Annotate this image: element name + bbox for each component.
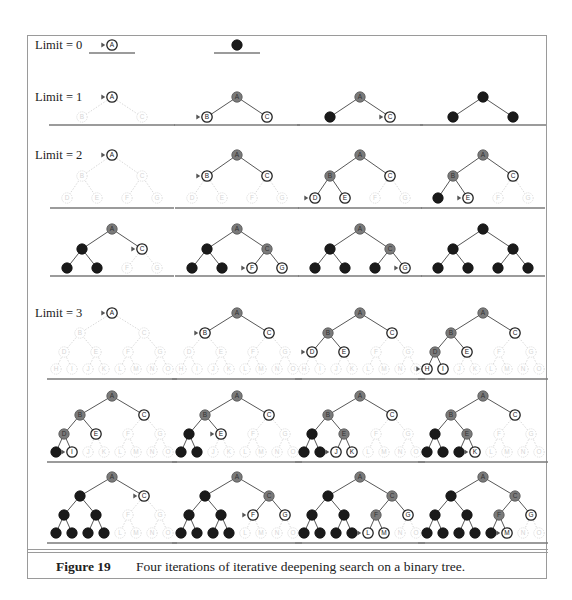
node-label: N <box>150 365 155 372</box>
node-label: J <box>86 365 89 372</box>
node-label: G <box>282 511 287 518</box>
limit-0-label: Limit = 0 <box>35 38 82 53</box>
node-label: C <box>265 113 270 120</box>
node-label: C <box>388 172 393 179</box>
search-tree: ACFGMNO <box>418 472 548 543</box>
search-tree: ABCEFGJKLMNO <box>295 391 425 462</box>
node-label: N <box>275 448 280 455</box>
node-label: O <box>165 448 170 455</box>
node-label: E <box>342 348 347 355</box>
search-tree: ACFGLMNO <box>47 472 177 543</box>
node-label: C <box>265 245 270 252</box>
node-label: G <box>405 511 410 518</box>
next-node-arrow-icon <box>101 43 105 48</box>
node-label: B <box>205 113 209 120</box>
tree-node-d <box>62 263 72 273</box>
node-label: A <box>110 225 115 232</box>
node-label: L <box>243 529 247 536</box>
node-label: A <box>110 392 115 399</box>
next-node-arrow-icon <box>457 196 461 201</box>
search-tree: ACFG <box>175 224 299 276</box>
node-label: G <box>157 511 162 518</box>
node-label: B <box>326 329 330 336</box>
search-tree: ABCDEFG <box>298 150 422 208</box>
node-label: B <box>78 329 82 336</box>
tree-node-d <box>433 263 443 273</box>
next-node-arrow-icon <box>133 494 137 499</box>
node-label: N <box>398 448 403 455</box>
tree-node-d <box>430 510 440 520</box>
next-node-arrow-icon <box>210 432 214 437</box>
node-label: M <box>381 448 386 455</box>
node-label: K <box>350 365 355 372</box>
node-label: F <box>251 348 255 355</box>
tree-node-b <box>325 244 335 254</box>
tree-node-e <box>92 263 102 273</box>
search-tree: ABCEFGKLMNO <box>418 391 548 462</box>
node-label: B <box>326 411 330 418</box>
node-label: C <box>142 329 147 336</box>
node-label: A <box>358 309 363 316</box>
tree-node-d <box>433 193 443 203</box>
tree-node-i <box>67 528 77 538</box>
node-label: A <box>235 151 240 158</box>
node-label: A <box>110 93 115 100</box>
node-label: G <box>157 348 162 355</box>
node-label: M <box>258 448 263 455</box>
tree-node-c <box>508 244 518 254</box>
node-label: A <box>358 225 363 232</box>
node-label: A <box>481 473 486 480</box>
node-label: F <box>496 194 500 201</box>
node-label: C <box>142 492 147 499</box>
node-label: C <box>142 411 147 418</box>
node-label: C <box>513 329 518 336</box>
next-node-arrow-icon <box>131 247 135 252</box>
tree-node-b <box>75 491 85 501</box>
tree-node-d <box>310 263 320 273</box>
tree-node-d <box>184 510 194 520</box>
next-node-arrow-icon <box>196 115 200 120</box>
node-label: G <box>528 511 533 518</box>
node-label: F <box>374 511 378 518</box>
node-label: A <box>235 392 240 399</box>
node-label: G <box>402 194 407 201</box>
search-tree: ABCEFG <box>421 150 545 208</box>
node-label: M <box>504 365 509 372</box>
node-label: N <box>398 365 403 372</box>
node-label: D <box>190 194 195 201</box>
node-label: F <box>373 194 377 201</box>
tree-node-b <box>448 244 458 254</box>
tree-node-f <box>370 263 380 273</box>
tree-node-d <box>184 429 194 439</box>
tree-node-i <box>438 447 448 457</box>
tree-node-e <box>340 263 350 273</box>
search-tree: ABC <box>174 92 300 125</box>
tree-node-h <box>176 528 186 538</box>
node-label: B <box>203 329 207 336</box>
node-label: G <box>528 348 533 355</box>
tree-node-d <box>187 263 197 273</box>
node-label: M <box>133 529 138 536</box>
node-label: F <box>497 511 501 518</box>
node-label: G <box>157 430 162 437</box>
node-label: O <box>290 529 295 536</box>
node-label: B <box>80 113 84 120</box>
tree-node-h <box>422 447 432 457</box>
node-label: E <box>95 194 100 201</box>
next-node-arrow-icon <box>101 95 105 100</box>
node-label: F <box>125 264 129 271</box>
node-label: D <box>62 348 67 355</box>
node-label: F <box>125 194 129 201</box>
node-label: D <box>187 348 192 355</box>
search-tree: ACG <box>298 224 422 276</box>
search-tree: ACFG <box>50 224 174 276</box>
tree-node-i <box>192 528 202 538</box>
node-label: L <box>118 365 122 372</box>
next-node-arrow-icon <box>101 153 105 158</box>
node-label: K <box>102 365 107 372</box>
node-label: L <box>489 365 493 372</box>
node-label: C <box>140 245 145 252</box>
node-label: O <box>290 448 295 455</box>
node-label: O <box>536 529 541 536</box>
tree-node-f <box>493 263 503 273</box>
